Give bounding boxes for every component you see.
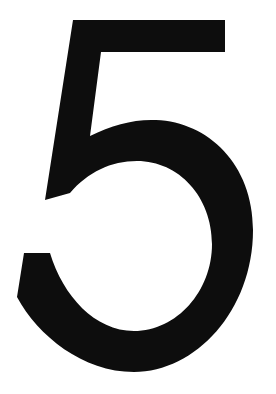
numeral-five-illustration: [0, 0, 276, 394]
image-canvas: 5: [0, 0, 276, 394]
